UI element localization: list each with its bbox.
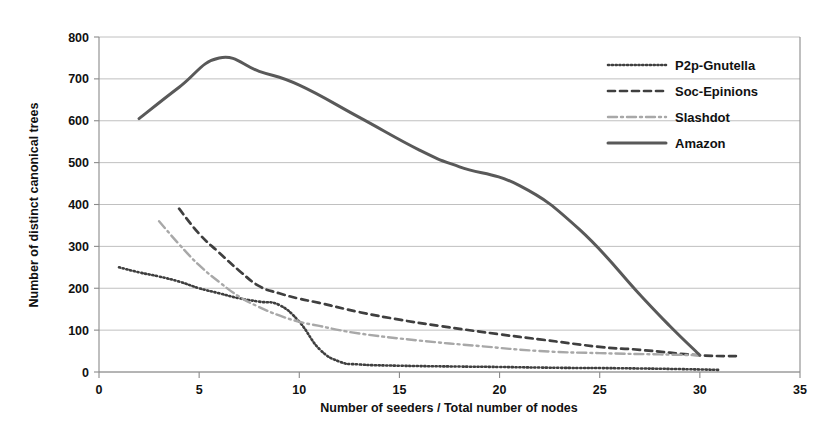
x-tick-label-25: 25 (593, 383, 607, 397)
y-tick-label-200: 200 (68, 282, 89, 296)
x-axis-title: Number of seeders / Total number of node… (320, 401, 577, 415)
series-line-soc-epinions (179, 209, 740, 356)
legend-item-soc-epinions[interactable]: Soc-Epinions (608, 84, 758, 99)
y-tick-label-400: 400 (68, 198, 89, 212)
x-tick-label-30: 30 (693, 383, 707, 397)
chart-legend: P2p-GnutellaSoc-EpinionsSlashdotAmazon (608, 58, 758, 151)
x-tick-label-15: 15 (392, 383, 406, 397)
series-line-amazon (139, 57, 700, 355)
legend-item-amazon[interactable]: Amazon (608, 136, 726, 151)
chart-container: 0100200300400500600700800 05101520253035… (0, 0, 839, 446)
x-tick-label-20: 20 (493, 383, 507, 397)
x-tick-label-5: 5 (196, 383, 203, 397)
x-tick-label-0: 0 (96, 383, 103, 397)
y-tick-label-0: 0 (82, 366, 89, 380)
legend-item-p2p-gnutella[interactable]: P2p-Gnutella (608, 58, 756, 73)
x-tick-label-10: 10 (292, 383, 306, 397)
legend-label-soc-epinions: Soc-Epinions (675, 84, 758, 99)
legend-label-p2p-gnutella: P2p-Gnutella (675, 58, 756, 73)
x-tick-label-35: 35 (793, 383, 807, 397)
y-tick-label-800: 800 (68, 31, 89, 45)
y-tick-label-500: 500 (68, 156, 89, 170)
y-axis-title: Number of distinct canonical trees (27, 103, 41, 308)
legend-label-slashdot: Slashdot (675, 110, 731, 125)
y-tick-label-100: 100 (68, 324, 89, 338)
legend-item-slashdot[interactable]: Slashdot (608, 110, 731, 125)
y-axis-tick-labels: 0100200300400500600700800 (68, 31, 89, 380)
y-tick-label-600: 600 (68, 114, 89, 128)
legend-label-amazon: Amazon (675, 136, 726, 151)
y-tick-label-700: 700 (68, 72, 89, 86)
x-axis-tick-labels: 05101520253035 (96, 383, 807, 397)
data-series (119, 57, 740, 370)
line-chart: 0100200300400500600700800 05101520253035… (0, 0, 839, 446)
y-tick-label-300: 300 (68, 240, 89, 254)
